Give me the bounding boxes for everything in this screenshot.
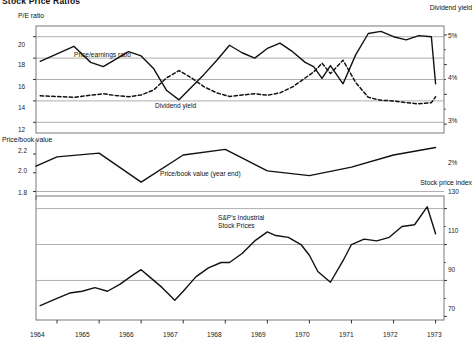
chart-plot-area bbox=[0, 0, 476, 350]
series-line-sp-industrial-stock-prices bbox=[40, 207, 435, 306]
bottom-panel-frame bbox=[36, 196, 444, 320]
series-line-price-earnings-ratio bbox=[40, 31, 435, 99]
chart-figure: Stock Price Ratios P/E ratio Dividend yi… bbox=[0, 0, 476, 350]
series-line-price-book-value bbox=[36, 147, 436, 182]
series-line-dividend-yield bbox=[40, 60, 435, 104]
